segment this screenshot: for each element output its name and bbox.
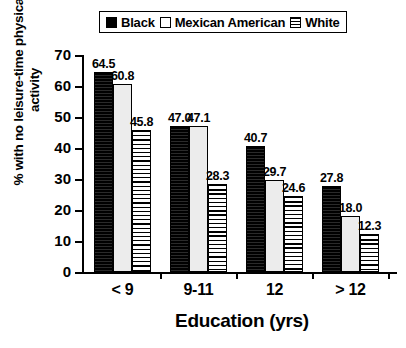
y-axis-tick: 40 <box>75 148 82 150</box>
legend-entry-white: White <box>290 16 339 29</box>
bar-value-label: 60.8 <box>111 69 134 83</box>
y-axis-title: % with no leisure-time physical activity <box>7 0 47 215</box>
plot-area: 010203040506070 64.560.845.8< 947.047.12… <box>82 55 397 272</box>
x-axis-line <box>82 272 397 274</box>
bar-group-bars: 47.047.128.3 <box>170 55 227 272</box>
legend-swatch-black-icon <box>106 17 117 28</box>
bar-value-label: 18.0 <box>339 201 362 215</box>
x-axis-tick <box>388 274 390 279</box>
y-axis-tick: 20 <box>75 210 82 212</box>
x-axis-category-label: > 12 <box>335 281 365 299</box>
bar[interactable]: 28.3 <box>208 184 227 272</box>
bar-value-label: 45.8 <box>130 115 153 129</box>
bar[interactable]: 60.8 <box>113 84 132 272</box>
bar-group-bars: 27.818.012.3 <box>322 55 379 272</box>
bar-group-bars: 40.729.724.6 <box>246 55 303 272</box>
y-axis-tick: 10 <box>75 241 82 243</box>
legend-swatch-white-icon <box>290 17 301 28</box>
legend-label-black: Black <box>121 16 155 29</box>
y-axis-tick: 60 <box>75 86 82 88</box>
y-axis-tick-label: 0 <box>63 263 71 280</box>
y-axis-tick-label: 60 <box>54 77 71 94</box>
x-axis-category-label: 12 <box>266 281 283 299</box>
x-axis-category-label: 9-11 <box>184 281 214 299</box>
y-axis-tick: 0 <box>75 272 82 274</box>
bar-value-label: 29.7 <box>263 165 286 179</box>
legend-label-white: White <box>305 16 339 29</box>
y-axis-tick: 50 <box>75 117 82 119</box>
bar[interactable]: 24.6 <box>284 196 303 272</box>
bar-value-label: 40.7 <box>244 131 267 145</box>
bar[interactable]: 45.8 <box>132 130 151 272</box>
x-axis-tick <box>160 274 162 279</box>
y-axis-tick-label: 10 <box>54 232 71 249</box>
y-axis-title-line1: % with no leisure-time physical <box>11 0 27 186</box>
chart-figure: Black Mexican American White % with no l… <box>0 0 406 348</box>
bar-value-label: 27.8 <box>320 171 343 185</box>
bar-value-label: 12.3 <box>358 219 381 233</box>
bar[interactable]: 64.5 <box>94 72 113 272</box>
bar[interactable]: 27.8 <box>322 186 341 272</box>
bar-group: 47.047.128.39-11 <box>170 55 227 272</box>
bar[interactable]: 47.1 <box>189 126 208 272</box>
bar-value-label: 24.6 <box>282 181 305 195</box>
legend-label-mexican-american: Mexican American <box>175 16 285 29</box>
x-axis-tick <box>236 274 238 279</box>
legend-entry-black: Black <box>106 16 155 29</box>
y-axis-tick: 30 <box>75 179 82 181</box>
x-axis-tick <box>312 274 314 279</box>
bar-group: 40.729.724.612 <box>246 55 303 272</box>
bar-group: 64.560.845.8< 9 <box>94 55 151 272</box>
y-axis-title-line2: activity <box>27 68 43 112</box>
legend-swatch-mexican-american-icon <box>160 17 171 28</box>
bar-group-bars: 64.560.845.8 <box>94 55 151 272</box>
y-axis-tick: 70 <box>75 55 82 57</box>
x-axis-title: Education (yrs) <box>82 310 402 332</box>
y-axis-tick-label: 20 <box>54 201 71 218</box>
chart-legend: Black Mexican American White <box>99 11 347 33</box>
bar-group: 27.818.012.3> 12 <box>322 55 379 272</box>
y-axis-tick-label: 30 <box>54 170 71 187</box>
y-axis-line <box>82 55 84 273</box>
y-axis-tick-label: 40 <box>54 139 71 156</box>
y-axis-tick-label: 50 <box>54 108 71 125</box>
x-axis-category-label: < 9 <box>112 281 134 299</box>
bar[interactable]: 12.3 <box>360 234 379 272</box>
bar-value-label: 47.1 <box>187 111 210 125</box>
legend-entry-mexican-american: Mexican American <box>160 16 285 29</box>
bar-value-label: 28.3 <box>206 169 229 183</box>
y-axis-tick-label: 70 <box>54 46 71 63</box>
bar[interactable]: 47.0 <box>170 126 189 272</box>
